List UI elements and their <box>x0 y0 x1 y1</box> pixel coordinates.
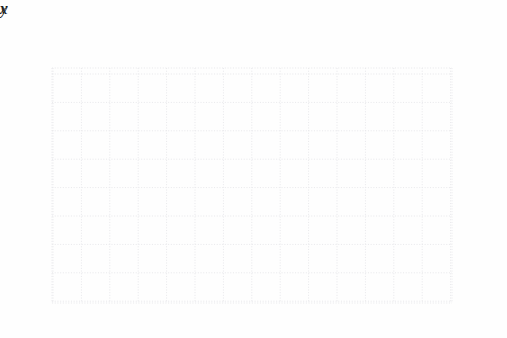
coordinate-plane <box>0 0 507 338</box>
graph-figure: x y <box>0 0 507 338</box>
grid-lines <box>52 68 452 303</box>
y-axis-label: y <box>0 0 8 17</box>
